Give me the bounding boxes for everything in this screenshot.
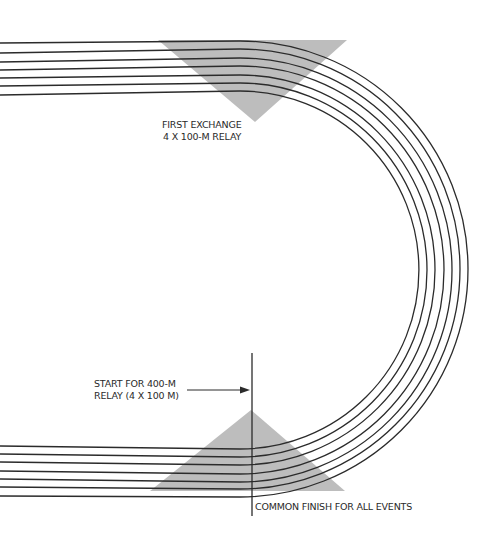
first-exchange-label-line1: FIRST EXCHANGE [162,119,242,131]
track-diagram [0,0,494,557]
common-finish-label: COMMON FINISH FOR ALL EVENTS [255,501,412,513]
first-exchange-label: FIRST EXCHANGE 4 X 100-M RELAY [162,119,242,143]
start-relay-label: START FOR 400-M RELAY (4 X 100 M) [94,378,179,402]
lane-line-2 [0,49,460,489]
start-relay-label-line2: RELAY (4 X 100 M) [94,390,179,402]
first-exchange-label-line2: 4 X 100-M RELAY [162,131,242,143]
start-exchange-zone [150,410,345,491]
start-arrow-icon [187,387,250,394]
lane-line-7 [0,91,419,449]
start-relay-label-line1: START FOR 400-M [94,378,179,390]
